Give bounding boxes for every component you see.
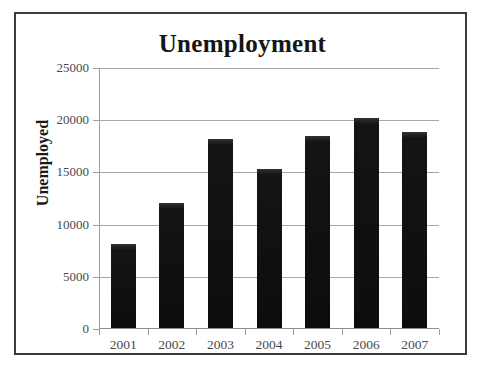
x-tick-mark: [390, 329, 391, 335]
y-tick-mark: [93, 68, 99, 69]
y-tick-label: 10000: [57, 217, 90, 233]
y-tick-label: 20000: [57, 112, 90, 128]
x-tick-mark: [342, 329, 343, 335]
bar-2006: [354, 118, 379, 328]
y-tick-mark: [93, 277, 99, 278]
y-tick-label: 5000: [63, 269, 89, 285]
gridline: [99, 120, 439, 121]
x-axis-line: [99, 328, 439, 329]
chart-screenshot: Unemployment Unemployed 0500010000150002…: [0, 0, 481, 369]
y-tick-mark: [93, 172, 99, 173]
chart-frame: Unemployment Unemployed 0500010000150002…: [14, 12, 467, 355]
x-tick-mark: [439, 329, 440, 335]
x-tick-label-2002: 2002: [158, 337, 185, 353]
x-tick-mark: [99, 329, 100, 335]
bar-2002: [159, 203, 184, 328]
x-tick-label-2007: 2007: [401, 337, 428, 353]
y-tick-label: 0: [83, 321, 90, 337]
y-tick-label: 25000: [57, 60, 90, 76]
x-tick-mark: [148, 329, 149, 335]
x-tick-mark: [245, 329, 246, 335]
y-tick-label: 15000: [57, 164, 90, 180]
x-tick-mark: [293, 329, 294, 335]
x-tick-label-2006: 2006: [353, 337, 380, 353]
bar-2004: [257, 169, 282, 328]
bar-2003: [208, 139, 233, 328]
y-axis-title: Unemployed: [34, 103, 52, 223]
x-tick-label-2003: 2003: [207, 337, 234, 353]
x-tick-label-2001: 2001: [110, 337, 137, 353]
x-tick-mark: [196, 329, 197, 335]
y-tick-mark: [93, 225, 99, 226]
x-tick-label-2004: 2004: [256, 337, 283, 353]
y-tick-mark: [93, 120, 99, 121]
x-tick-label-2005: 2005: [304, 337, 331, 353]
bar-2005: [305, 136, 330, 328]
gridline: [99, 68, 439, 69]
bar-2001: [111, 244, 136, 328]
chart-title: Unemployment: [16, 30, 469, 58]
plot-area: 0500010000150002000025000 20012002200320…: [99, 68, 439, 329]
bar-2007: [402, 132, 427, 328]
y-axis-line: [99, 68, 100, 329]
